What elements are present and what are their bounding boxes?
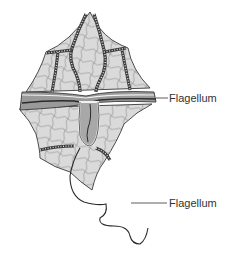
sulcus bbox=[79, 102, 99, 146]
label-longitudinal-flagellum: Flagellum bbox=[169, 197, 217, 209]
dinoflagellate-diagram bbox=[0, 0, 229, 253]
epitheca bbox=[26, 12, 150, 92]
label-transverse-flagellum: Flagellum bbox=[169, 92, 217, 104]
